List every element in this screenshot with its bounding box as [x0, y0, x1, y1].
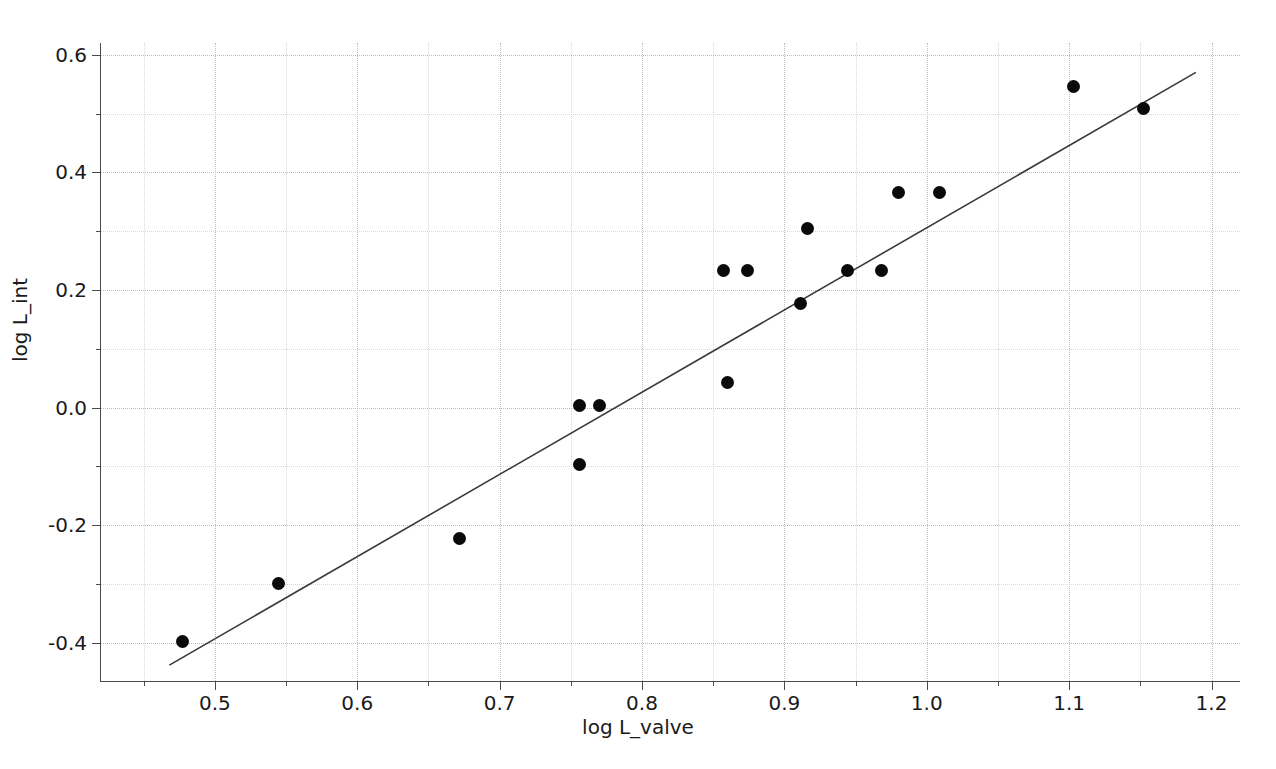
data-point	[717, 264, 730, 277]
x-tick	[784, 681, 785, 690]
y-tick	[92, 172, 101, 173]
data-point	[1067, 80, 1080, 93]
x-tick-label: 0.6	[341, 691, 373, 715]
data-point	[453, 532, 466, 545]
x-tick-minor	[428, 681, 429, 686]
data-point	[573, 458, 586, 471]
y-tick-label: -0.2	[48, 513, 87, 537]
plot-area: 0.50.60.70.80.91.01.11.20.60.40.20.0-0.2…	[100, 43, 1240, 682]
data-point	[801, 222, 814, 235]
y-tick	[92, 290, 101, 291]
y-tick	[92, 525, 101, 526]
x-tick-minor	[571, 681, 572, 686]
figure-caption	[0, 752, 1276, 769]
data-point	[794, 297, 807, 310]
y-tick-label: 0.2	[55, 278, 87, 302]
x-tick	[642, 681, 643, 690]
scatter-plot-figure: log L_int log L_valve 0.50.60.70.80.91.0…	[0, 0, 1276, 769]
x-tick-minor	[856, 681, 857, 686]
x-tick	[927, 681, 928, 690]
x-tick	[357, 681, 358, 690]
y-tick-label: 0.6	[55, 43, 87, 67]
y-tick-label: 0.4	[55, 160, 87, 184]
data-point	[1137, 102, 1150, 115]
x-tick-label: 1.0	[911, 691, 943, 715]
x-tick-label: 0.5	[199, 691, 231, 715]
x-tick-label: 0.9	[768, 691, 800, 715]
x-tick	[215, 681, 216, 690]
y-tick	[92, 408, 101, 409]
x-tick-minor	[713, 681, 714, 686]
x-tick	[1212, 681, 1213, 690]
x-tick	[500, 681, 501, 690]
data-point	[875, 264, 888, 277]
y-tick	[92, 55, 101, 56]
x-tick-minor	[144, 681, 145, 686]
x-tick-minor	[998, 681, 999, 686]
x-tick-minor	[286, 681, 287, 686]
x-tick-label: 1.2	[1196, 691, 1228, 715]
data-point	[741, 264, 754, 277]
x-tick-label: 0.7	[484, 691, 516, 715]
data-point	[841, 264, 854, 277]
regression-line-segment	[169, 72, 1196, 665]
y-axis-label: log L_int	[8, 278, 32, 362]
y-tick-label: 0.0	[55, 396, 87, 420]
x-tick	[1069, 681, 1070, 690]
x-tick-minor	[1140, 681, 1141, 686]
y-tick-label: -0.4	[48, 631, 87, 655]
y-tick	[92, 643, 101, 644]
x-tick-label: 1.1	[1053, 691, 1085, 715]
x-axis-label: log L_valve	[0, 715, 1276, 739]
x-tick-label: 0.8	[626, 691, 658, 715]
data-point	[176, 635, 189, 648]
